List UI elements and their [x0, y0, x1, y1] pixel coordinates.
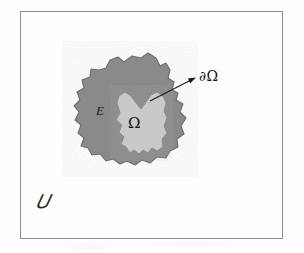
outer-region-label: E — [96, 104, 104, 117]
figure-root: ∂Ω E Ω 𝑈 — [0, 0, 304, 253]
figure-canvas — [0, 0, 304, 253]
inner-region-label: Ω — [128, 116, 140, 131]
callout-arrowhead — [188, 78, 196, 84]
universe-label: 𝑈 — [36, 192, 50, 211]
boundary-label: ∂Ω — [199, 69, 218, 83]
